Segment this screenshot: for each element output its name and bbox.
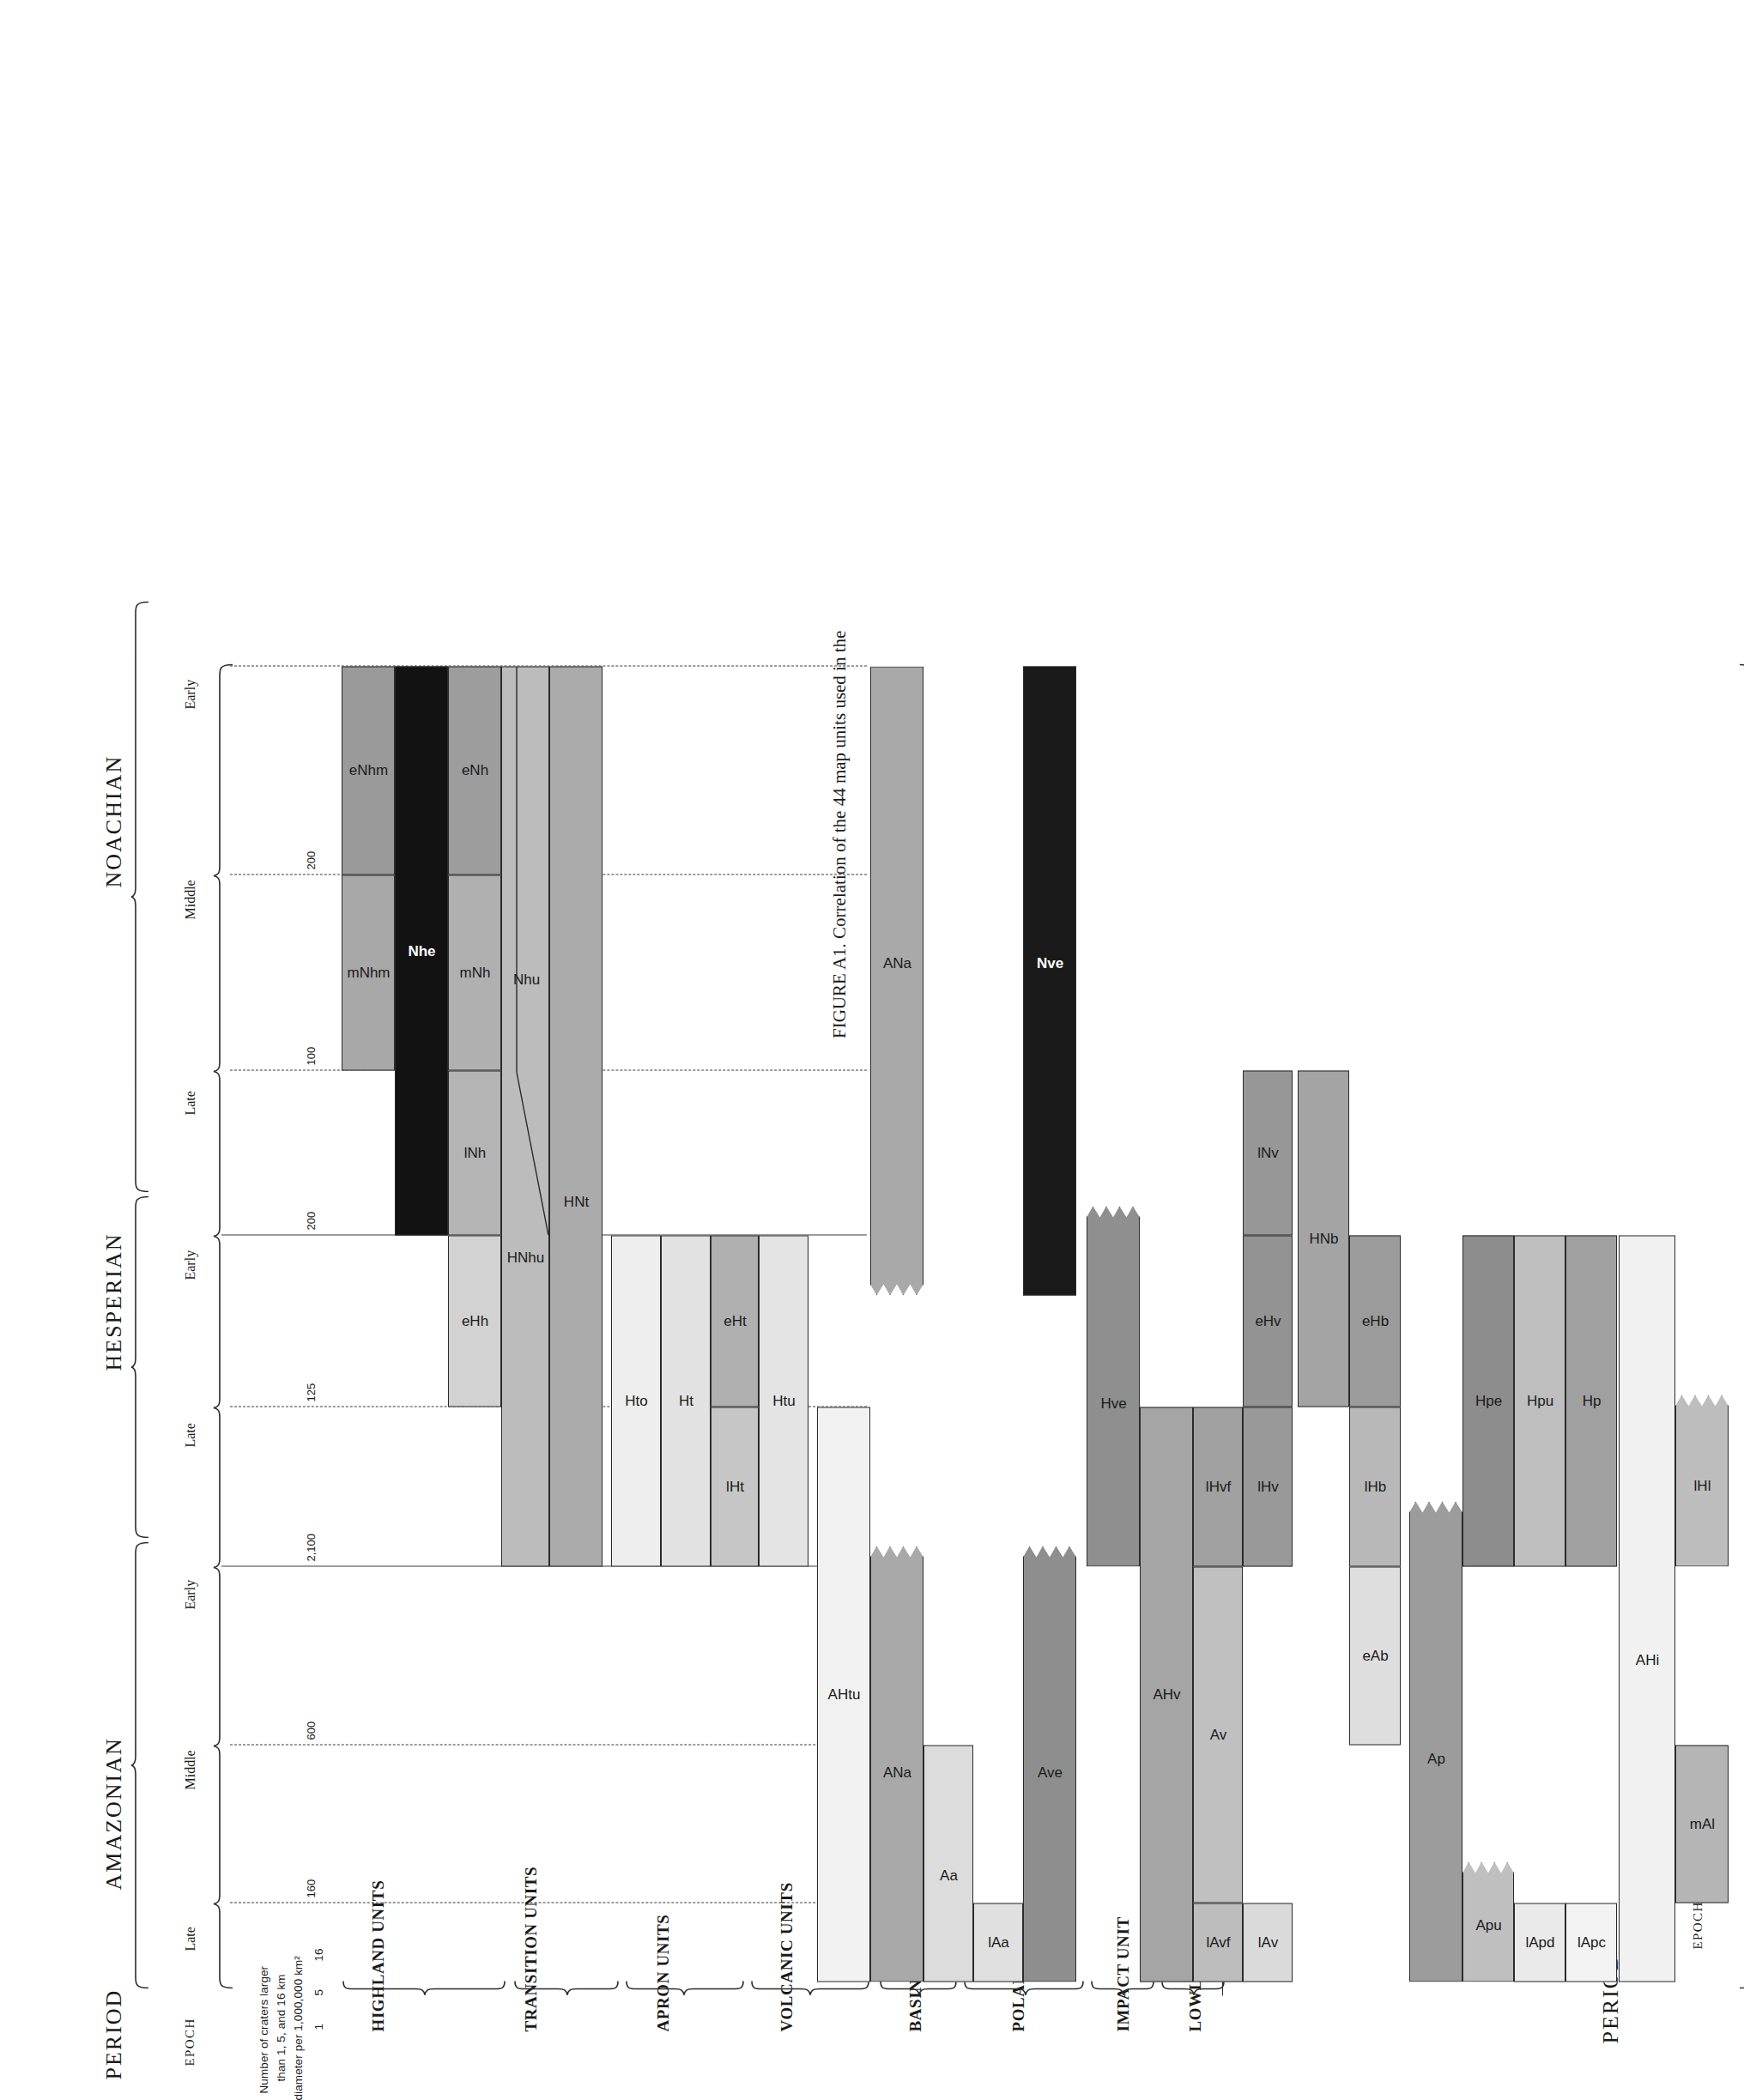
- period-brace-amazonian: [130, 1541, 149, 1988]
- epoch-brace-row-bottom: [1739, 598, 1744, 1988]
- period-label-noachian: NOACHIAN: [101, 754, 127, 887]
- unit-eHh[interactable]: eHh: [448, 1235, 501, 1407]
- epoch-label-late-amazonian: Late: [183, 1927, 198, 1951]
- epoch-label-middle-amazonian: Middle: [183, 1750, 198, 1789]
- crater-density-col-1: 1: [312, 2023, 325, 2030]
- boundary-line-600: [230, 1744, 867, 1745]
- unit-HNhu[interactable]: HNhu: [501, 666, 549, 1566]
- unit-Ht[interactable]: Ht: [661, 1235, 711, 1566]
- unit-Ave[interactable]: Ave: [1023, 1546, 1076, 1982]
- epoch-label-middle-noachian: Middle: [183, 880, 198, 919]
- epoch-axis-title: EPOCH: [1691, 1901, 1705, 1949]
- period-brace-hesperian: [130, 1195, 149, 1538]
- unit-AHtu[interactable]: AHtu: [817, 1407, 870, 1982]
- unit-Hve[interactable]: Hve: [1087, 1206, 1140, 1566]
- unit-lHl[interactable]: lHl: [1675, 1395, 1729, 1566]
- crater-density-label-line2: than 1, 5, and 16 km: [275, 1974, 288, 2081]
- crater-density-col-5: 5: [312, 1988, 325, 1995]
- unit-Apu[interactable]: Apu: [1462, 1861, 1514, 1982]
- unit-lNh[interactable]: lNh: [448, 1070, 501, 1235]
- rotated-chart-host: PERIOD EPOCH AMAZONIAN HESPERIAN NOACHIA…: [0, 0, 872, 2078]
- unit-HNt[interactable]: HNt: [549, 666, 603, 1566]
- unit-eNhm[interactable]: eNhm: [342, 666, 395, 874]
- unit-eHb[interactable]: eHb: [1349, 1235, 1401, 1407]
- epoch-axis-title-top: EPOCH: [183, 2018, 197, 2066]
- boundary-tick-2100: 2,100: [305, 1533, 318, 1561]
- unit-Htu[interactable]: Htu: [759, 1235, 808, 1566]
- unit-HNb[interactable]: HNb: [1298, 1070, 1349, 1407]
- boundary-tick-125: 125: [305, 1383, 318, 1401]
- unit-Hpe[interactable]: Hpe: [1462, 1235, 1514, 1566]
- unit-Hpu[interactable]: Hpu: [1514, 1235, 1565, 1566]
- figure-caption: FIGURE A1. Correlation of the 44 map uni…: [829, 631, 851, 1038]
- unit-AHv[interactable]: AHv: [1140, 1407, 1193, 1982]
- epoch-label-early-noachian: Early: [183, 679, 198, 709]
- crater-density-label-line1: Number of craters larger: [257, 1965, 270, 2093]
- unit-Nve[interactable]: Nve: [1023, 666, 1076, 1295]
- unit-lHv[interactable]: lHv: [1243, 1407, 1293, 1566]
- period-axis-title-top: PERIOD: [101, 1988, 127, 2079]
- unit-lAv[interactable]: lAv: [1243, 1903, 1293, 1982]
- unit-lHb[interactable]: lHb: [1349, 1407, 1401, 1566]
- boundary-tick-200-noachian: 200: [305, 850, 318, 869]
- group-label-impact-unit: IMPACT UNIT: [1114, 1916, 1133, 2031]
- unit-Ap[interactable]: Ap: [1409, 1501, 1462, 1982]
- unit-Hto[interactable]: Hto: [611, 1235, 661, 1566]
- group-label-apron-units: APRON UNITS: [654, 1914, 673, 2031]
- unit-Nhe[interactable]: Nhe: [395, 666, 448, 1235]
- unit-lAa[interactable]: lAa: [973, 1903, 1023, 1982]
- correlation-chart: PERIOD EPOCH AMAZONIAN HESPERIAN NOACHIA…: [0, 0, 872, 2078]
- group-label-transition-units: TRANSITION UNITS: [522, 1866, 541, 2031]
- unit-Av[interactable]: Av: [1193, 1566, 1243, 1903]
- unit-lApc[interactable]: lApc: [1565, 1903, 1617, 1982]
- period-label-amazonian: AMAZONIAN: [101, 1737, 127, 1890]
- unit-lHvf[interactable]: lHvf: [1193, 1407, 1243, 1566]
- epoch-label-early-hesperian: Early: [183, 1250, 198, 1280]
- group-label-highland-units: HIGHLAND UNITS: [369, 1879, 388, 2031]
- unit-eHt[interactable]: eHt: [711, 1235, 759, 1407]
- unit-mAl[interactable]: mAl: [1675, 1745, 1729, 1903]
- boundary-tick-200-hesperian: 200: [305, 1211, 318, 1230]
- boundary-tick-600: 600: [305, 1721, 318, 1740]
- period-label-hesperian: HESPERIAN: [101, 1232, 127, 1371]
- unit-AHi[interactable]: AHi: [1619, 1235, 1675, 1982]
- unit-mNh[interactable]: mNh: [448, 874, 501, 1070]
- unit-ANa-amazonian[interactable]: ANa: [870, 1546, 923, 1982]
- group-brace-column: [342, 1980, 1251, 1995]
- epoch-brace-row: [213, 598, 233, 1988]
- unit-eHv[interactable]: eHv: [1243, 1235, 1293, 1407]
- boundary-tick-100: 100: [305, 1046, 318, 1065]
- boundary-line-160: [230, 1902, 867, 1903]
- unit-ANa-noachian[interactable]: ANa: [870, 666, 923, 1295]
- unit-Aa[interactable]: Aa: [923, 1745, 973, 1982]
- unit-lHt[interactable]: lHt: [711, 1407, 759, 1566]
- unit-lApd[interactable]: lApd: [1514, 1903, 1565, 1982]
- epoch-label-early-amazonian: Early: [183, 1579, 198, 1609]
- epoch-label-late-hesperian: Late: [183, 1423, 198, 1447]
- group-label-volcanic-units: VOLCANIC UNITS: [778, 1882, 796, 2031]
- crater-density-label-line3: diameter per 1,000,000 km²: [292, 1956, 305, 2100]
- unit-eAb[interactable]: eAb: [1349, 1566, 1401, 1745]
- unit-mNhm[interactable]: mNhm: [342, 874, 395, 1070]
- unit-lAvf[interactable]: lAvf: [1193, 1903, 1243, 1982]
- unit-eNh[interactable]: eNh: [448, 666, 501, 874]
- unit-lNv[interactable]: lNv: [1243, 1070, 1293, 1235]
- boundary-tick-160: 160: [305, 1879, 318, 1897]
- epoch-label-late-noachian: Late: [183, 1091, 198, 1115]
- unit-Hp[interactable]: Hp: [1565, 1235, 1617, 1566]
- unit-Nhu-label: Nhu: [513, 971, 540, 988]
- period-brace-noachian: [130, 601, 149, 1192]
- crater-density-col-16: 16: [312, 1948, 325, 1961]
